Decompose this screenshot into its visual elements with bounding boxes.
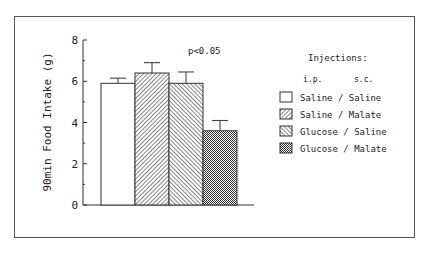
legend-swatch [280, 126, 292, 136]
y-tick-label: 8 [71, 34, 78, 47]
legend-swatch [280, 92, 292, 102]
legend-label: Glucose / Saline [300, 127, 387, 137]
y-tick-label: 4 [71, 117, 78, 130]
y-tick-label: 2 [71, 158, 78, 171]
legend-swatch [280, 109, 292, 119]
bar [203, 131, 237, 205]
y-tick-label: 6 [71, 75, 78, 88]
legend-subheader-sc: s.c. [354, 75, 373, 84]
bar [135, 73, 169, 205]
legend-subheader-ip: i.p. [303, 75, 322, 84]
legend-label: Glucose / Malate [300, 144, 387, 154]
bars [101, 63, 237, 205]
bar-chart: 02468 p<0.05 90min Food Intake (g) Injec… [0, 0, 429, 254]
legend-title: Injections: [308, 53, 368, 63]
legend: Injections:i.p.s.c.Saline / SalineSaline… [280, 53, 387, 154]
legend-swatch [280, 143, 292, 153]
y-tick-label: 0 [71, 199, 78, 212]
bar [169, 83, 203, 205]
legend-label: Saline / Malate [300, 110, 381, 120]
legend-label: Saline / Saline [300, 93, 381, 103]
significance-annotation: p<0.05 [188, 46, 221, 56]
y-axis-label: 90min Food Intake (g) [41, 52, 54, 191]
bar [101, 83, 135, 205]
